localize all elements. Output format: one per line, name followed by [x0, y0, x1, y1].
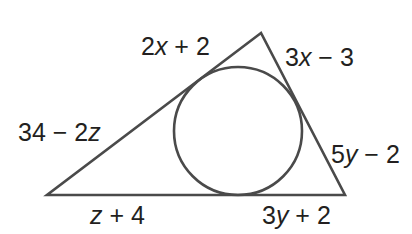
label-34-minus-2z: 34 − 2z — [18, 118, 101, 146]
label-3y-plus-2: 3y + 2 — [262, 201, 331, 229]
label-5y-minus-2: 5y − 2 — [331, 140, 400, 168]
label-2x-plus-2: 2x + 2 — [141, 32, 210, 60]
inscribed-circle — [174, 67, 302, 195]
incircle-diagram: 2x + 2 3x − 3 34 − 2z 5y − 2 z + 4 3y + … — [0, 0, 412, 234]
label-3x-minus-3: 3x − 3 — [285, 43, 354, 71]
label-z-plus-4: z + 4 — [89, 201, 145, 229]
